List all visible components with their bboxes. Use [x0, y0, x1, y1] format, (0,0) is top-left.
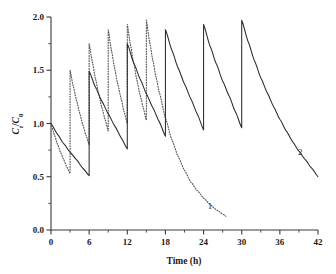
- x-tick-label: 0: [49, 237, 54, 247]
- chart-figure: 0.00.51.01.52.0 06121824303642 12 Time (…: [0, 0, 336, 274]
- y-tick-label: 1.0: [33, 119, 45, 129]
- x-axis: 06121824303642: [49, 230, 323, 247]
- series-line-2: [51, 20, 318, 177]
- series-label-1: 1: [208, 201, 213, 211]
- svg-text:Ct/C0: Ct/C0: [11, 113, 25, 134]
- y-axis-title: Ct/C0: [11, 113, 25, 134]
- x-tick-label: 36: [275, 237, 285, 247]
- x-tick-label: 6: [87, 237, 92, 247]
- x-tick-label: 12: [123, 237, 133, 247]
- x-tick-label: 42: [314, 237, 324, 247]
- y-tick-label: 2.0: [33, 12, 45, 22]
- y-axis: 0.00.51.01.52.0: [33, 12, 51, 235]
- x-axis-tick-labels: 06121824303642: [49, 237, 323, 247]
- y-title-sub2: 0: [17, 113, 25, 117]
- plot-canvas: 0.00.51.01.52.0 06121824303642 12 Time (…: [0, 0, 336, 274]
- y-axis-major-ticks: [47, 17, 52, 230]
- y-tick-label: 0.5: [33, 172, 45, 182]
- x-axis-title: Time (h): [167, 256, 202, 267]
- x-tick-label: 24: [199, 237, 209, 247]
- data-series-group: [51, 20, 318, 216]
- series-annotations: 12: [208, 147, 303, 210]
- series-label-2: 2: [298, 147, 303, 157]
- y-tick-label: 0.0: [33, 225, 45, 235]
- y-tick-label: 1.5: [33, 65, 45, 75]
- x-tick-label: 18: [161, 237, 171, 247]
- x-tick-label: 30: [237, 237, 247, 247]
- y-axis-tick-labels: 0.00.51.01.52.0: [33, 12, 45, 235]
